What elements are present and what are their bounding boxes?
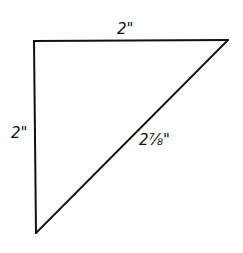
hypotenuse-label: 2⅞" bbox=[139, 133, 170, 148]
top-side-label: 2" bbox=[117, 22, 133, 37]
left-side bbox=[34, 41, 36, 233]
hypotenuse bbox=[36, 40, 228, 233]
left-side-label: 2" bbox=[11, 126, 27, 141]
top-side bbox=[34, 40, 228, 41]
